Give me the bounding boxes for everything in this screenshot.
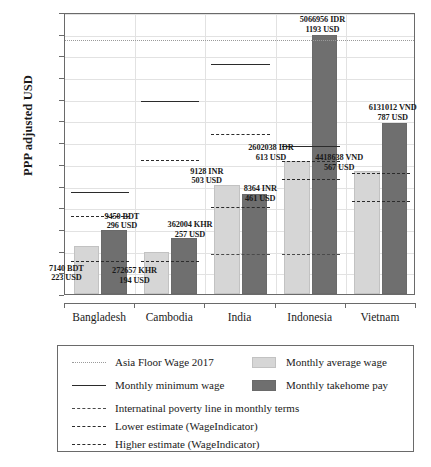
refline-minimum-wage	[211, 64, 269, 65]
gridline	[65, 79, 414, 80]
legend-key-dotted-line	[72, 362, 106, 363]
label-usd: 567 USD	[324, 163, 354, 172]
legend-key-dark-swatch	[252, 380, 276, 391]
legend-label: Monthly takehome pay	[286, 379, 388, 391]
bar-takehome-pay	[171, 238, 197, 294]
gridline	[65, 101, 414, 102]
refline-minimum-wage	[71, 192, 129, 193]
x-axis-line	[64, 303, 415, 304]
x-axis-label-india: India	[204, 311, 274, 323]
value-label-average-wage: 4418638 VND567 USD	[305, 153, 373, 172]
label-local-currency: 362004 KHR	[168, 220, 213, 229]
value-label-average-wage: 272657 KHR194 USD	[101, 266, 169, 285]
legend-label: Higher estimate (WageIndicator)	[115, 438, 260, 450]
x-axis-tick-mark	[415, 303, 416, 308]
refline-higher-estimate	[141, 160, 199, 161]
x-axis-label-indonesia: Indonesia	[275, 311, 345, 323]
legend-label: Monthly average wage	[286, 356, 387, 368]
label-usd: 257 USD	[175, 230, 205, 239]
x-axis-tick-mark	[134, 303, 135, 308]
label-local-currency: 2602038 IDR	[248, 143, 293, 152]
gridline	[65, 122, 414, 123]
x-axis-tick-mark	[345, 303, 346, 308]
y-axis-title: PPP adjusted USD	[21, 46, 36, 206]
legend-label: Internatinal poverty line in monthly ter…	[115, 402, 299, 414]
vertical-gridline	[205, 14, 206, 294]
legend-label: Monthly minimum wage	[115, 379, 224, 391]
label-usd: 296 USD	[107, 221, 137, 230]
value-label-takehome-pay: 6131012 VND787 USD	[359, 103, 427, 122]
legend-key-dashdot-line	[72, 408, 106, 409]
y-axis-tick-mark	[59, 295, 64, 296]
refline-poverty-line	[211, 254, 269, 255]
bar-takehome-pay	[242, 194, 268, 294]
label-local-currency: 6131012 VND	[369, 103, 417, 112]
value-label-average-wage: 2602038 IDR613 USD	[237, 143, 305, 162]
refline-lower-estimate	[211, 207, 269, 208]
label-local-currency: 272657 KHR	[112, 266, 157, 275]
legend-key-dashed-line	[72, 444, 106, 445]
label-usd: 503 USD	[192, 176, 222, 185]
value-label-takehome-pay: 362004 KHR257 USD	[156, 220, 224, 239]
gridline	[65, 36, 414, 37]
chart-figure: PPP adjusted USD 13001200110010009008007…	[0, 0, 431, 467]
value-label-takehome-pay: 9450 BDT296 USD	[88, 212, 156, 231]
refline-lower-estimate	[141, 261, 199, 262]
refline-lower-estimate	[352, 201, 410, 202]
legend-key-light-swatch	[252, 357, 276, 368]
label-local-currency: 9450 BDT	[104, 212, 139, 221]
refline-poverty-line	[282, 254, 340, 255]
refline-asia-floor-wage	[65, 40, 414, 41]
vertical-gridline	[135, 14, 136, 294]
label-usd: 1193 USD	[305, 25, 339, 34]
label-usd: 194 USD	[119, 276, 149, 285]
bar-average-wage	[354, 171, 380, 294]
bar-average-wage	[284, 161, 310, 294]
legend-label: Lower estimate (WageIndicator)	[115, 420, 258, 432]
x-axis-label-vietnam: Vietnam	[345, 311, 415, 323]
value-label-average-wage: 7140 BDT223 USD	[32, 264, 100, 283]
label-local-currency: 7140 BDT	[49, 264, 84, 273]
x-axis-label-cambodia: Cambodia	[134, 311, 204, 323]
gridline	[65, 57, 414, 58]
value-label-takehome-pay: 8364 INR461 USD	[226, 184, 294, 203]
label-usd: 223 USD	[51, 273, 81, 282]
legend-label: Asia Floor Wage 2017	[115, 356, 214, 368]
label-local-currency: 9128 INR	[190, 167, 223, 176]
refline-lower-estimate	[282, 179, 340, 180]
value-label-takehome-pay: 5066956 IDR1193 USD	[288, 15, 356, 34]
refline-higher-estimate	[352, 173, 410, 174]
plot-area: 7140 BDT223 USD9450 BDT296 USD272657 KHR…	[64, 13, 415, 295]
x-axis-label-bangladesh: Bangladesh	[64, 311, 134, 323]
label-local-currency: 5066956 IDR	[300, 15, 345, 24]
refline-lower-estimate	[71, 261, 129, 262]
refline-higher-estimate	[211, 134, 269, 135]
label-local-currency: 8364 INR	[244, 184, 277, 193]
legend-key-solid-line	[72, 385, 106, 386]
label-usd: 461 USD	[245, 194, 275, 203]
x-axis-tick-mark	[64, 303, 65, 308]
label-usd: 613 USD	[256, 153, 286, 162]
x-axis-tick-mark	[204, 303, 205, 308]
label-local-currency: 4418638 VND	[315, 153, 363, 162]
legend-key-dashed-line	[72, 426, 106, 427]
x-axis-tick-mark	[275, 303, 276, 308]
gridline	[65, 14, 414, 15]
label-usd: 787 USD	[377, 113, 407, 122]
bar-takehome-pay	[382, 123, 408, 294]
chart-legend: Asia Floor Wage 2017Monthly minimum wage…	[57, 345, 414, 452]
refline-minimum-wage	[141, 101, 199, 102]
